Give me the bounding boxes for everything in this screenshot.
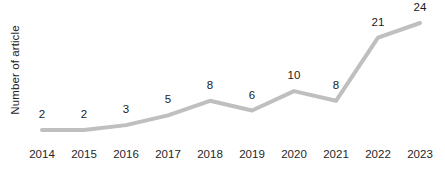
y-axis-title-text: Number of article (9, 25, 21, 114)
x-tick-label: 2021 (323, 148, 349, 160)
x-tick-label: 2020 (281, 148, 307, 160)
series-line-number-of-article (42, 23, 420, 130)
x-tick-label: 2019 (239, 148, 265, 160)
x-tick-label: 2023 (407, 148, 433, 160)
line-chart: Number of article 2235861082124 20142015… (0, 0, 445, 169)
x-tick-label: 2017 (155, 148, 181, 160)
series-line-svg (30, 0, 445, 140)
x-tick-label: 2015 (71, 148, 97, 160)
x-tick-label: 2016 (113, 148, 139, 160)
x-tick-label: 2022 (365, 148, 391, 160)
x-tick-label: 2014 (29, 148, 55, 160)
y-axis-title: Number of article (0, 0, 30, 140)
x-tick-label: 2018 (197, 148, 223, 160)
plot-area: 2235861082124 (30, 0, 445, 140)
x-axis: 2014201520162017201820192020202120222023 (30, 140, 445, 169)
